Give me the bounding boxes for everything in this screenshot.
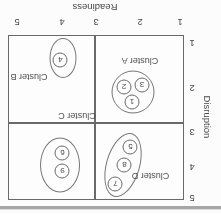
cluster-d-label: Cluster D — [132, 172, 170, 182]
y-tick-3: 3 — [189, 127, 194, 137]
data-point-4: 4 — [53, 53, 68, 68]
x-tick-2: 2 — [137, 17, 142, 27]
cluster-a-label: Cluster A — [122, 56, 159, 66]
y-tick-5: 5 — [189, 193, 194, 203]
data-point-6: 6 — [55, 146, 70, 161]
data-point-5: 5 — [123, 140, 138, 155]
y-tick-1: 1 — [189, 38, 194, 48]
x-tick-1: 1 — [177, 17, 182, 27]
scanned-quadrant-chart-page: 1 2 3 4 5 Readiness 5 4 3 2 1 Disruption… — [0, 0, 221, 214]
chart-rotated-180: 1 2 3 4 5 Readiness 5 4 3 2 1 Disruption… — [0, 0, 221, 214]
data-point-8: 8 — [117, 158, 132, 173]
data-point-9: 9 — [55, 164, 70, 179]
y-axis-title: Disruption — [203, 96, 214, 139]
page-rule-divider — [0, 206, 221, 210]
horizontal-quadrant-divider — [8, 123, 184, 125]
cluster-c-label: Cluster C — [58, 112, 96, 122]
y-tick-2: 2 — [189, 83, 194, 93]
data-point-2: 2 — [117, 80, 132, 95]
x-tick-3: 3 — [93, 17, 98, 27]
y-tick-4: 4 — [189, 162, 194, 172]
data-point-3: 3 — [135, 78, 150, 93]
data-point-7: 7 — [108, 177, 123, 192]
cluster-b-label: Cluster B — [10, 72, 47, 82]
x-tick-5: 5 — [14, 17, 19, 27]
x-axis-title: Readiness — [73, 3, 118, 14]
data-point-1: 1 — [125, 95, 140, 110]
x-tick-4: 4 — [59, 17, 64, 27]
